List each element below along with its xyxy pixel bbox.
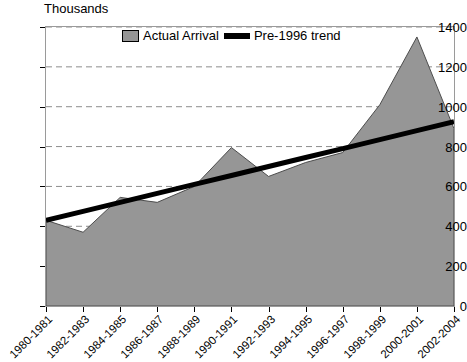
y-axis-tick-label: 1400 [427,20,467,35]
chart-legend: Actual Arrival Pre-1996 trend [122,28,341,43]
legend-item-pre-1996-trend: Pre-1996 trend [224,28,341,43]
x-axis-tick-mark [83,307,84,312]
y-axis-tick-label: 400 [427,219,467,234]
x-axis-tick-mark [194,307,195,312]
y-axis-tick-mark [40,306,45,307]
y-axis-tick-label: 200 [427,259,467,274]
x-axis-tick-mark [46,307,47,312]
y-axis-tick-mark [40,266,45,267]
x-axis-tick-mark [157,307,158,312]
x-axis-tick-mark [120,307,121,312]
x-axis-tick-mark [306,307,307,312]
legend-label-pre-1996-trend: Pre-1996 trend [254,28,341,43]
x-axis-tick-mark [454,307,455,312]
y-axis-tick-label: 1200 [427,59,467,74]
x-axis-tick-mark [231,307,232,312]
trend-line [46,122,454,221]
y-axis-tick-label: 800 [427,139,467,154]
y-axis-tick-mark [40,107,45,108]
y-axis-tick-label: 600 [427,179,467,194]
legend-item-actual-arrival: Actual Arrival [122,28,219,43]
line-swatch-icon [224,33,250,39]
x-axis-tick-mark [380,307,381,312]
plot-area [45,26,455,307]
y-axis-tick-mark [40,226,45,227]
x-axis-tick-mark [269,307,270,312]
chart-container: Thousands 0200400600800100012001400 1980… [0,0,467,362]
y-axis-tick-label: 1000 [427,99,467,114]
y-axis-tick-mark [40,186,45,187]
x-axis-tick-mark [417,307,418,312]
y-axis-tick-mark [40,147,45,148]
pre-1996-trend-line-series [46,27,454,306]
y-axis-tick-mark [40,67,45,68]
y-axis-tick-label: 0 [427,299,467,314]
y-axis-unit-label: Thousands [44,1,108,16]
x-axis-tick-mark [343,307,344,312]
legend-label-actual-arrival: Actual Arrival [143,28,219,43]
y-axis-tick-mark [40,27,45,28]
area-swatch-icon [122,30,139,42]
